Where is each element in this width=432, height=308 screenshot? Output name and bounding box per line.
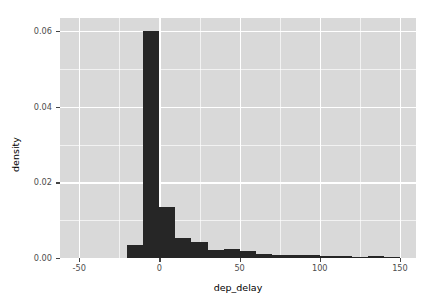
- y-axis-title-text: density: [10, 137, 21, 172]
- gridline-major-vertical: [400, 18, 401, 258]
- histogram-bar: [336, 256, 352, 258]
- histogram-bar: [191, 242, 207, 258]
- y-axis-tick-label: 0.02: [6, 178, 52, 186]
- histogram-bar: [175, 238, 191, 258]
- histogram-bar: [288, 255, 304, 258]
- histogram-bar: [143, 31, 159, 258]
- histogram-bar: [256, 254, 272, 258]
- gridline-minor-horizontal: [60, 145, 416, 146]
- y-axis-tick: [56, 107, 60, 108]
- x-axis-title: dep_delay: [60, 282, 416, 293]
- y-axis-tick: [56, 258, 60, 259]
- x-axis-tick-label: 150: [380, 264, 420, 272]
- gridline-minor-horizontal: [60, 220, 416, 221]
- y-axis-tick-label: 0.06: [6, 27, 52, 35]
- x-axis-tick-label: -50: [59, 264, 99, 272]
- gridline-minor-vertical: [200, 18, 201, 258]
- gridline-major-horizontal: [60, 107, 416, 108]
- x-axis-tick: [400, 258, 401, 262]
- gridline-major-vertical: [79, 18, 80, 258]
- y-axis-tick: [56, 182, 60, 183]
- chart-root: density 0.000.020.040.06-50050100150 dep…: [0, 0, 432, 308]
- y-axis-tick: [56, 31, 60, 32]
- x-axis-tick: [320, 258, 321, 262]
- gridline-major-horizontal: [60, 31, 416, 32]
- x-axis-tick-label: 50: [220, 264, 260, 272]
- histogram-bar: [384, 257, 400, 258]
- histogram-bar: [224, 249, 240, 258]
- plot-panel: [60, 18, 416, 258]
- gridline-major-vertical: [320, 18, 321, 258]
- y-axis-tick-label: 0.00: [6, 254, 52, 262]
- histogram-bar: [352, 257, 368, 258]
- histogram-bar: [272, 255, 288, 258]
- histogram-bar: [320, 256, 336, 258]
- histogram-bar: [368, 256, 384, 258]
- gridline-minor-vertical: [119, 18, 120, 258]
- histogram-bar: [127, 245, 143, 258]
- x-axis-tick-label: 0: [139, 264, 179, 272]
- histogram-bar: [208, 250, 224, 258]
- gridline-major-horizontal: [60, 182, 416, 183]
- gridline-major-vertical: [240, 18, 241, 258]
- x-axis-tick-label: 100: [300, 264, 340, 272]
- y-axis-tick-label: 0.04: [6, 103, 52, 111]
- histogram-bar: [240, 251, 256, 258]
- histogram-bar: [159, 207, 175, 258]
- histogram-bar: [304, 255, 320, 258]
- x-axis-tick: [79, 258, 80, 262]
- gridline-minor-vertical: [280, 18, 281, 258]
- x-axis-tick: [159, 258, 160, 262]
- gridline-minor-vertical: [360, 18, 361, 258]
- x-axis-tick: [240, 258, 241, 262]
- gridline-minor-horizontal: [60, 69, 416, 70]
